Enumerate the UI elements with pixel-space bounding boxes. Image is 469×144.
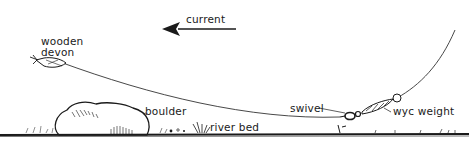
current-label: current xyxy=(186,14,225,25)
rod-line xyxy=(397,30,455,98)
boulder-label: boulder xyxy=(145,106,187,117)
boulder-icon xyxy=(55,102,149,135)
swivel-label: swivel xyxy=(290,103,324,114)
fishing-rig-diagram: current wooden devon boulder river bed s… xyxy=(0,0,469,144)
wooden-devon-label-line2: devon xyxy=(41,47,74,58)
wyc-weight-leader xyxy=(384,108,391,112)
river-bed-label: river bed xyxy=(210,122,259,133)
wyc-weight-label: wyc weight xyxy=(393,106,454,117)
